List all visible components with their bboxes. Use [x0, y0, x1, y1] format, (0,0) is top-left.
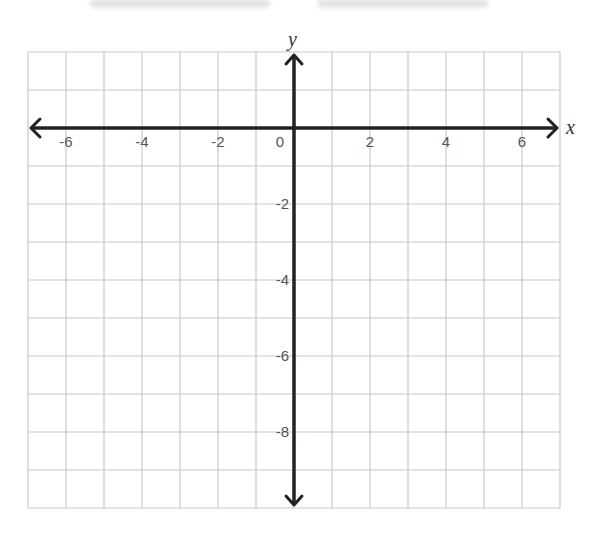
x-tick-label: 6: [518, 133, 526, 150]
x-tick-label: -2: [211, 133, 224, 150]
y-tick-label: -8: [276, 423, 289, 440]
y-tick-label: -2: [276, 195, 289, 212]
x-tick-label: -4: [135, 133, 148, 150]
x-axis-label: x: [565, 116, 575, 138]
y-tick-label: -6: [276, 347, 289, 364]
y-axis-label: y: [286, 28, 297, 51]
y-tick-label: -4: [276, 271, 289, 288]
coordinate-plane: -6-4-20246 -2-4-6-8 x y: [0, 0, 598, 538]
x-tick-label: 2: [366, 133, 374, 150]
x-tick-label: 0: [276, 133, 284, 150]
x-tick-label: 4: [442, 133, 450, 150]
x-tick-label: -6: [59, 133, 72, 150]
